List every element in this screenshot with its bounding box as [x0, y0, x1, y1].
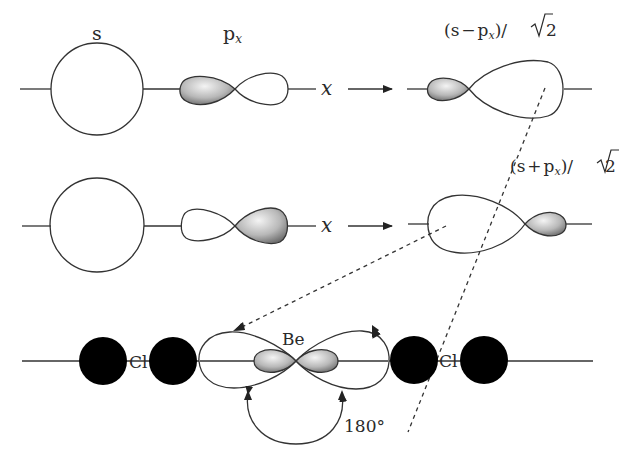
- svg-text:(s−px)/: (s−px)/: [444, 20, 507, 42]
- label-cl-left: Cl: [129, 352, 147, 372]
- be-small-lobe-right-shaded: [296, 350, 338, 373]
- hybrid-plus-small-lobe-shaded: [525, 212, 566, 235]
- label-angle-180: 180°: [344, 416, 385, 436]
- hybrid-minus: [407, 61, 592, 119]
- sp-hybridization-diagram: s px x x (s−px)/ 2 (s+px)/ 2 Be Cl Cl 18…: [0, 0, 621, 464]
- px-negative-lobe: [181, 209, 235, 240]
- svg-text:2: 2: [605, 156, 616, 176]
- label-axis-x-2: x: [321, 213, 332, 237]
- row-1-s-and-px: [20, 43, 316, 135]
- label-px: px: [223, 22, 242, 46]
- angle-arc-180: [247, 394, 342, 444]
- px-positive-lobe: [235, 73, 288, 104]
- hybrid-plus: [408, 195, 592, 253]
- row-2-s-and-px: [22, 178, 316, 272]
- svg-text:(s+px)/: (s+px)/: [510, 156, 573, 178]
- angle-arrowhead-right-icon: [338, 390, 346, 400]
- hybrid-minus-large-lobe: [469, 61, 563, 119]
- px-negative-lobe-shaded: [180, 76, 235, 104]
- cl-atom-left-inner: [149, 337, 197, 385]
- label-be: Be: [282, 329, 305, 349]
- cl-atom-left-outer: [79, 337, 127, 385]
- label-axis-x-1: x: [321, 76, 332, 100]
- cl-atom-right-inner: [390, 336, 438, 384]
- dashed-arrowhead-left-icon: [233, 322, 245, 331]
- label-s: s: [92, 22, 102, 44]
- px-positive-lobe-shaded: [235, 208, 288, 243]
- angle-arrowhead-left-icon: [244, 390, 252, 400]
- label-hybrid-plus: (s+px)/ 2: [510, 150, 619, 178]
- label-cl-right: Cl: [439, 351, 457, 371]
- s-orbital: [51, 43, 143, 135]
- hybrid-plus-large-lobe: [428, 195, 525, 253]
- cl-atom-right-outer: [460, 336, 508, 384]
- label-hybrid-minus: (s−px)/ 2: [444, 14, 557, 42]
- hybrid-minus-small-lobe-shaded: [428, 78, 470, 100]
- be-small-lobe-left-shaded: [254, 350, 296, 373]
- svg-text:2: 2: [546, 20, 557, 40]
- s-orbital: [50, 178, 144, 272]
